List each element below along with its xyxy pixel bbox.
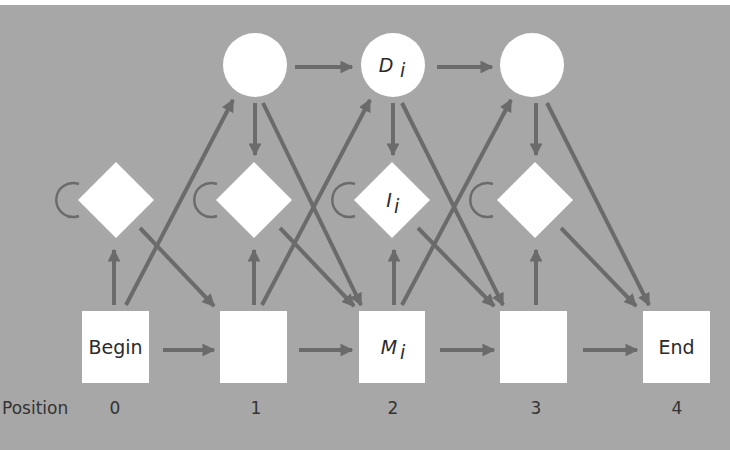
delete-states: D i bbox=[223, 33, 564, 97]
end-label: End bbox=[658, 336, 694, 358]
position-3: 3 bbox=[531, 398, 542, 418]
insert-state-label: I bbox=[386, 189, 392, 211]
position-0: 0 bbox=[110, 398, 121, 418]
hmm-diagram: D i I i Begin M i End bbox=[0, 5, 730, 450]
position-row: Position 0 1 2 3 4 bbox=[2, 398, 682, 418]
end-state: End bbox=[643, 311, 710, 383]
delete-state-label: D bbox=[379, 54, 394, 76]
position-2: 2 bbox=[388, 398, 399, 418]
position-1: 1 bbox=[251, 398, 262, 418]
delete-state-3 bbox=[500, 33, 564, 97]
match-state-2: M i bbox=[359, 311, 425, 383]
insert-states: I i bbox=[78, 162, 573, 238]
match-states: Begin M i End bbox=[82, 311, 710, 383]
insert-state-subscript: i bbox=[394, 195, 400, 217]
insert-state-0 bbox=[78, 162, 154, 238]
match-state-subscript: i bbox=[400, 341, 406, 363]
position-title: Position bbox=[2, 398, 68, 418]
delete-state-1 bbox=[223, 33, 287, 97]
match-state-1 bbox=[220, 311, 287, 383]
insert-to-match-transitions bbox=[140, 228, 636, 306]
match-state-3 bbox=[500, 311, 567, 383]
insert-state-3 bbox=[497, 162, 573, 238]
match-state-label: M bbox=[381, 336, 397, 358]
insert-state-2: I i bbox=[354, 162, 430, 238]
delete-state-subscript: i bbox=[400, 59, 406, 81]
begin-label: Begin bbox=[88, 336, 142, 358]
begin-state: Begin bbox=[82, 311, 149, 383]
insert-state-1 bbox=[216, 162, 292, 238]
diagram-canvas: D i I i Begin M i End bbox=[0, 5, 730, 450]
delete-state-2: D i bbox=[361, 33, 425, 97]
position-4: 4 bbox=[672, 398, 683, 418]
